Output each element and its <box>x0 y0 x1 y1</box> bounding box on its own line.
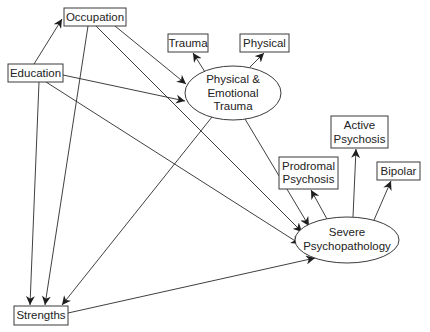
node-strengths: Strengths <box>14 306 68 325</box>
edge-pe-trauma-to-strengths <box>62 117 212 305</box>
edge-severe-to-prodromal-psychosis <box>311 190 327 219</box>
node-occupation: Occupation <box>64 8 126 26</box>
node-occupation-label: Occupation <box>66 11 124 23</box>
edge-education-to-pe-trauma <box>63 75 185 101</box>
node-trauma-label: Trauma <box>168 37 208 49</box>
node-prodromal-psychosis: Prodromal Psychosis <box>279 157 338 189</box>
node-active-psychosis-label-line-2: Psychosis <box>334 133 386 145</box>
node-prodromal-psychosis-label-line-1: Prodromal <box>282 160 335 172</box>
node-severe-psychopathology: Severe Psychopathology <box>295 217 399 263</box>
node-trauma: Trauma <box>168 34 208 52</box>
node-severe-label-line-2: Psychopathology <box>303 240 391 252</box>
node-bipolar-label: Bipolar <box>381 165 417 177</box>
node-active-psychosis-label-line-1: Active <box>344 119 375 131</box>
edge-severe-to-bipolar <box>374 181 391 220</box>
edge-occupation-to-severe-psychopathology <box>96 26 302 232</box>
edge-pe-trauma-to-physical <box>250 53 264 67</box>
node-physical-emotional-trauma: Physical & Emotional Trauma <box>185 66 281 120</box>
node-prodromal-psychosis-label-line-2: Psychosis <box>283 173 335 185</box>
edge-strengths-to-severe-psychopathology <box>68 258 315 313</box>
path-diagram: Occupation Education Trauma Physical Phy… <box>0 0 430 332</box>
edge-education-to-occupation <box>34 19 62 64</box>
node-pe-trauma-label-line-2: Emotional <box>207 87 258 99</box>
node-education-label: Education <box>10 67 61 79</box>
node-severe-label-line-1: Severe <box>329 226 365 238</box>
node-bipolar: Bipolar <box>377 162 420 180</box>
edge-pe-trauma-to-trauma <box>193 53 205 72</box>
edge-severe-to-active-psychosis <box>353 149 356 217</box>
node-pe-trauma-label-line-3: Trauma <box>213 100 253 112</box>
node-active-psychosis: Active Psychosis <box>331 116 388 148</box>
node-physical: Physical <box>240 34 289 52</box>
node-physical-label: Physical <box>243 37 286 49</box>
edge-education-to-strengths <box>30 82 39 305</box>
node-strengths-label: Strengths <box>16 309 65 321</box>
node-education: Education <box>8 64 63 82</box>
node-pe-trauma-label-line-1: Physical & <box>206 73 260 85</box>
